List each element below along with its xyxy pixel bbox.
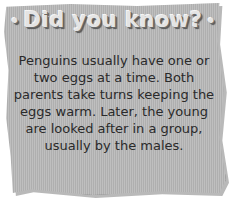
fact-body: Penguins usually have one or two eggs at…: [10, 52, 218, 154]
bullet-left-icon: •: [10, 13, 19, 29]
bullet-right-icon: •: [206, 13, 215, 29]
card-title: •Did you know?•: [0, 8, 226, 32]
title-text: Did you know?: [24, 8, 203, 32]
